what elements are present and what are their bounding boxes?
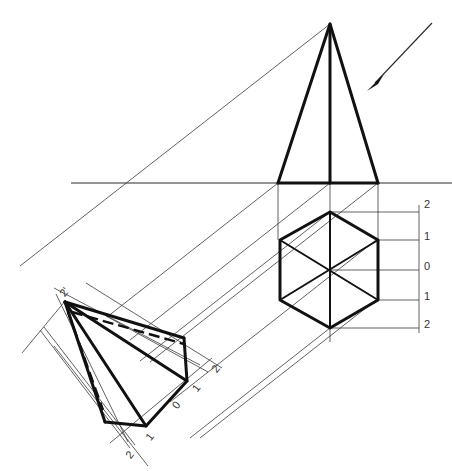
front-view bbox=[278, 24, 378, 183]
plan-label-2-bottom: 2 bbox=[424, 318, 430, 330]
projection-lines bbox=[20, 24, 378, 438]
technical-drawing: 2 1 0 1 2 2' 2 1 0 1 2 bbox=[0, 0, 452, 471]
auxiliary-view-pyramid bbox=[65, 302, 187, 426]
line-of-sight-arrow bbox=[367, 23, 432, 91]
drawing-canvas: 2 1 0 1 2 2' 2 1 0 1 2 bbox=[0, 0, 452, 471]
aux-label-1-right: 1 bbox=[189, 382, 202, 394]
aux-label-1-left: 1 bbox=[143, 431, 156, 443]
plan-label-1-bottom: 1 bbox=[424, 290, 430, 302]
plan-label-0: 0 bbox=[424, 260, 430, 272]
plan-depth-labels: 2 1 0 1 2 bbox=[424, 198, 430, 330]
aux-label-2-left: 2 bbox=[123, 449, 136, 461]
plan-label-1-top: 1 bbox=[424, 230, 430, 242]
aux-label-0: 0 bbox=[169, 399, 182, 411]
plan-depth-lines bbox=[330, 205, 419, 333]
apex-label: 2' bbox=[57, 285, 72, 299]
aux-label-2-right: 2 bbox=[209, 363, 222, 375]
auxiliary-depth-lines bbox=[20, 283, 222, 466]
plan-label-2-top: 2 bbox=[424, 198, 430, 210]
